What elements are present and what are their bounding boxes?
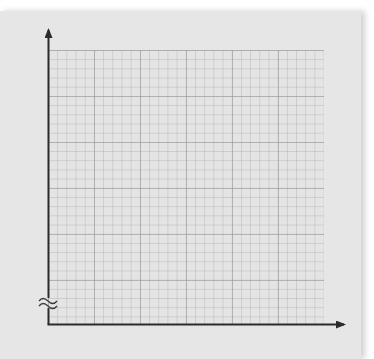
axis-break-icon xyxy=(39,299,57,309)
graph-canvas xyxy=(0,0,374,359)
axes xyxy=(0,0,374,359)
